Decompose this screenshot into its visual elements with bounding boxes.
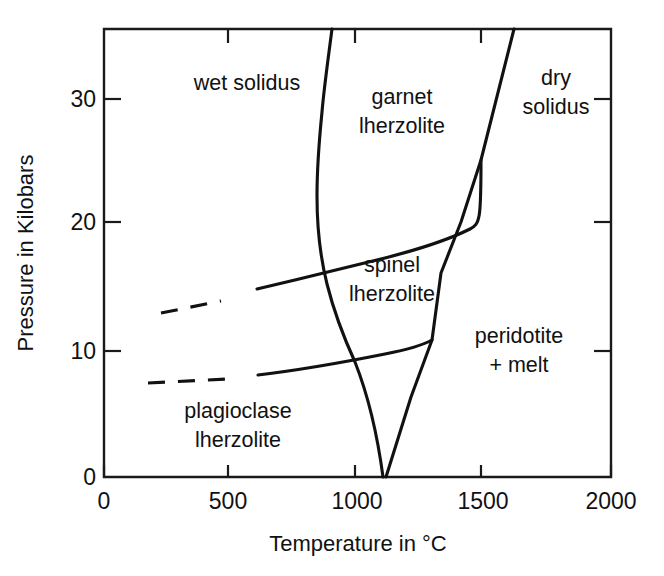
x-axis-ticks-bottom — [104, 465, 611, 477]
y-tick-label-0: 0 — [83, 464, 96, 490]
curve-garnet-spinel-boundary-dashed — [161, 301, 221, 313]
y-tick-label-10: 10 — [70, 338, 96, 364]
annotation-spinel-lherzolite: spinel lherzolite — [349, 253, 435, 306]
annotation-garnet-lherzolite: garnet lherzolite — [359, 85, 445, 138]
annotation-peridotite-melt: peridotite + melt — [475, 324, 563, 377]
y-tick-label-20: 20 — [70, 209, 96, 235]
y-tick-labels: 0 10 20 30 — [70, 86, 96, 490]
annotation-plagioclase-lherzolite-line-2: lherzolite — [195, 428, 281, 452]
x-tick-label-0: 0 — [98, 488, 111, 514]
annotation-garnet-lherzolite-line-1: garnet — [372, 85, 433, 109]
annotation-peridotite-melt-line-2: + melt — [489, 353, 548, 377]
x-axis-title: Temperature in °C — [269, 531, 447, 556]
y-axis-ticks-left — [104, 99, 121, 351]
annotation-spinel-lherzolite-line-2: lherzolite — [349, 282, 435, 306]
phase-diagram-plot: 0 500 1000 1500 2000 0 10 20 30 Temperat… — [0, 0, 664, 576]
annotation-spinel-lherzolite-line-1: spinel — [364, 253, 420, 277]
curve-plagioclase-spinel-boundary-dashed — [148, 379, 227, 383]
annotation-dry-solidus-line-1: dry — [541, 66, 571, 90]
x-tick-label-1000: 1000 — [331, 488, 382, 514]
y-axis-ticks-right — [594, 99, 611, 351]
annotation-dry-solidus: dry solidus — [523, 66, 590, 119]
x-tick-label-1500: 1500 — [457, 488, 508, 514]
y-axis-title: Pressure in Kilobars — [13, 155, 38, 352]
curve-plagioclase-spinel-boundary — [258, 340, 432, 375]
phase-diagram-figure: 0 500 1000 1500 2000 0 10 20 30 Temperat… — [0, 0, 664, 576]
annotation-plagioclase-lherzolite-line-1: plagioclase — [184, 399, 292, 423]
annotation-garnet-lherzolite-line-2: lherzolite — [359, 114, 445, 138]
annotation-dry-solidus-line-2: solidus — [523, 95, 590, 119]
x-tick-label-2000: 2000 — [585, 488, 636, 514]
x-tick-label-500: 500 — [209, 488, 247, 514]
annotation-wet-solidus: wet solidus — [193, 71, 300, 95]
x-axis-ticks-top — [228, 29, 481, 43]
annotation-peridotite-melt-line-1: peridotite — [475, 324, 563, 348]
annotation-wet-solidus-line-1: wet solidus — [193, 71, 300, 95]
x-tick-labels: 0 500 1000 1500 2000 — [98, 488, 637, 514]
annotation-plagioclase-lherzolite: plagioclase lherzolite — [184, 399, 292, 452]
y-tick-label-30: 30 — [70, 86, 96, 112]
